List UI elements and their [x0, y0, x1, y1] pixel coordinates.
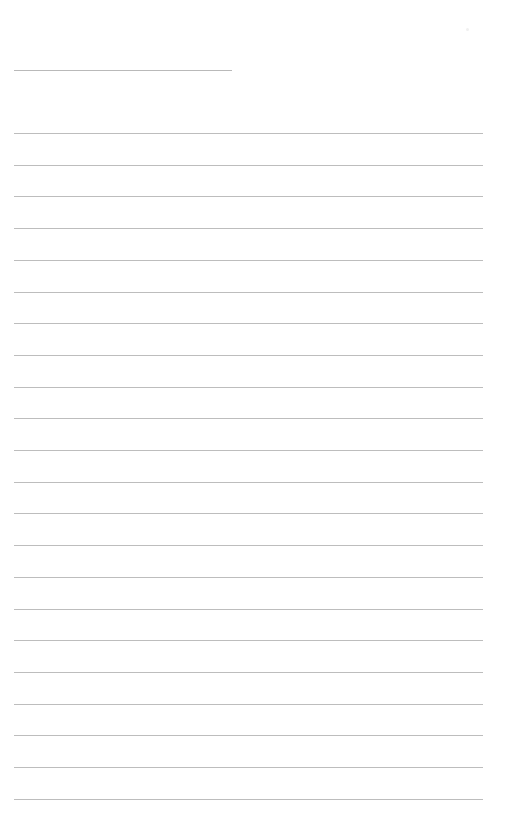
ruled-line — [14, 545, 483, 546]
ruled-line — [14, 513, 483, 514]
ruled-line — [14, 577, 483, 578]
ruled-line — [14, 704, 483, 705]
ruled-line — [14, 196, 483, 197]
ruled-line — [14, 640, 483, 641]
ruled-line — [14, 672, 483, 673]
title-line — [14, 70, 232, 71]
ruled-line — [14, 228, 483, 229]
ruled-line — [14, 133, 483, 134]
ruled-line — [14, 735, 483, 736]
ruled-line — [14, 799, 483, 800]
ruled-line — [14, 450, 483, 451]
ruled-line — [14, 323, 483, 324]
ruled-line — [14, 260, 483, 261]
ruled-line — [14, 482, 483, 483]
ruled-line — [14, 165, 483, 166]
faint-mark — [466, 28, 469, 31]
lined-page — [0, 0, 507, 828]
ruled-line — [14, 387, 483, 388]
ruled-line — [14, 355, 483, 356]
ruled-line — [14, 292, 483, 293]
ruled-line — [14, 767, 483, 768]
ruled-line — [14, 418, 483, 419]
ruled-line — [14, 609, 483, 610]
